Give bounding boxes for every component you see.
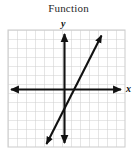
x-axis-label: x bbox=[126, 84, 131, 94]
y-axis-label: y bbox=[61, 19, 65, 29]
coordinate-plane-plot bbox=[0, 0, 137, 157]
function-graph-figure: Function y x bbox=[0, 0, 137, 157]
